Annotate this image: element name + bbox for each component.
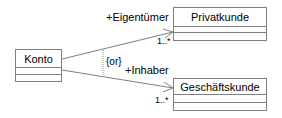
multiplicity-label-geschaeftskunde: 1..* — [155, 96, 169, 105]
attributes-compartment — [174, 95, 266, 103]
role-label-eigentuemer: +Eigentümer — [106, 12, 169, 23]
class-konto[interactable]: Konto — [15, 49, 62, 82]
role-label-inhaber: +Inhaber — [125, 65, 169, 76]
attributes-compartment — [16, 68, 61, 75]
multiplicity-label-privatkunde: 1..* — [157, 37, 171, 46]
operations-compartment — [174, 33, 266, 40]
constraint-label-or: {or} — [106, 57, 122, 67]
class-name: Geschäftskunde — [174, 79, 266, 95]
class-privatkunde[interactable]: Privatkunde — [173, 7, 267, 41]
operations-compartment — [174, 103, 266, 110]
operations-compartment — [16, 75, 61, 81]
class-name: Konto — [16, 50, 61, 68]
class-name: Privatkunde — [174, 8, 266, 27]
class-geschaeftskunde[interactable]: Geschäftskunde — [173, 78, 267, 111]
